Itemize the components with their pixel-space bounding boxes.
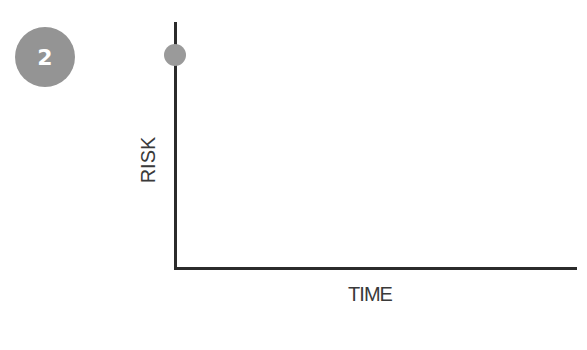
- y-axis-label: RISK: [136, 130, 160, 190]
- step-number: 2: [37, 45, 52, 70]
- data-point: [164, 44, 186, 66]
- x-axis-label: TIME: [340, 283, 400, 306]
- step-number-badge: 2: [15, 27, 75, 87]
- x-axis: [174, 267, 577, 270]
